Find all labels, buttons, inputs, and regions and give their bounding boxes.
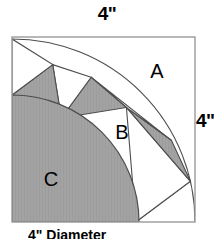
region-label-a: A: [150, 60, 164, 82]
dimension-label-right: 4": [196, 111, 214, 130]
dimension-label-top: 4": [0, 4, 214, 23]
figure-canvas: A B C: [0, 0, 214, 239]
figure-caption: 4" Diameter: [28, 228, 198, 239]
region-label-c: C: [44, 168, 58, 190]
geometry-figure: A B C 4" 4" 4" Diameter: [0, 0, 214, 239]
region-label-b: B: [115, 121, 128, 143]
